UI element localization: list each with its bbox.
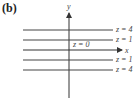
level-label: z = 1 — [115, 55, 133, 64]
level-label: z = 4 — [115, 25, 133, 34]
level-label: z = 4 — [115, 65, 133, 74]
center-level-label: z = 0 — [72, 40, 90, 49]
x-axis-label: x — [124, 46, 129, 55]
level-label: z = 1 — [115, 35, 133, 44]
level-curve-diagram: y z = 4 z = 1 x z = 1 z = 4 z = 0 — [0, 0, 133, 104]
y-axis-label: y — [66, 2, 71, 11]
